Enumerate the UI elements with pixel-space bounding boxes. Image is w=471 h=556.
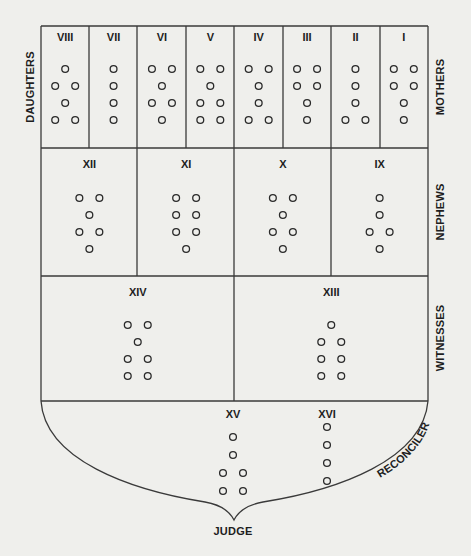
double-dot-right: [144, 356, 151, 363]
single-dot: [230, 452, 237, 459]
double-dot-right: [265, 117, 272, 124]
single-dot: [304, 117, 311, 124]
single-dot: [376, 195, 383, 202]
double-dot-left: [269, 229, 276, 236]
double-dot-left: [390, 83, 397, 90]
double-dot-left: [173, 212, 180, 219]
house-numeral: XIV: [129, 286, 147, 298]
double-dot-right: [96, 195, 103, 202]
double-dot-left: [220, 470, 227, 477]
house-numeral: XV: [226, 408, 241, 420]
single-dot: [86, 212, 93, 219]
double-dot-right: [410, 66, 417, 73]
single-dot: [352, 83, 359, 90]
figure-xv: XV: [220, 408, 247, 494]
double-dot-right: [193, 229, 200, 236]
single-dot: [400, 117, 407, 124]
double-dot-right: [144, 322, 151, 329]
double-dot-right: [193, 195, 200, 202]
double-dot-left: [366, 229, 373, 236]
single-dot: [352, 100, 359, 107]
figure-iii: III: [294, 31, 321, 123]
house-numeral: IV: [253, 31, 264, 43]
double-dot-left: [197, 66, 204, 73]
mothers-label: MOTHERS: [434, 59, 446, 115]
double-dot-right: [265, 66, 272, 73]
double-dot-right: [410, 83, 417, 90]
house-numeral: II: [352, 31, 358, 43]
figure-ii: II: [342, 31, 369, 123]
double-dot-right: [96, 229, 103, 236]
double-dot-right: [144, 373, 151, 380]
double-dot-left: [245, 117, 252, 124]
single-dot: [207, 83, 214, 90]
house-numeral: VI: [157, 31, 167, 43]
single-dot: [324, 460, 331, 467]
figure-xvi: XVI: [318, 408, 336, 484]
double-dot-left: [124, 322, 131, 329]
witnesses-label: WITNESSES: [434, 305, 446, 372]
nephews-label: NEPHEWS: [434, 183, 446, 240]
double-dot-right: [289, 229, 296, 236]
double-dot-right: [217, 100, 224, 107]
double-dot-left: [124, 373, 131, 380]
double-dot-right: [193, 212, 200, 219]
figure-xiii: XIII: [318, 286, 345, 379]
single-dot: [304, 100, 311, 107]
double-dot-left: [220, 488, 227, 495]
judge-label: JUDGE: [214, 525, 253, 537]
house-numeral: VIII: [57, 31, 74, 43]
house-numeral: V: [207, 31, 215, 43]
figure-xi: XI: [173, 158, 200, 252]
figure-i: I: [390, 31, 417, 123]
double-dot-left: [197, 100, 204, 107]
single-dot: [62, 100, 69, 107]
double-dot-right: [217, 66, 224, 73]
double-dot-left: [269, 195, 276, 202]
double-dot-right: [362, 117, 369, 124]
double-dot-left: [342, 117, 349, 124]
double-dot-right: [72, 83, 79, 90]
single-dot: [255, 100, 262, 107]
figure-xiv: XIV: [124, 286, 151, 379]
single-dot: [183, 246, 190, 253]
house-numeral: I: [402, 31, 405, 43]
house-numeral: III: [302, 31, 311, 43]
shield-diagram: DAUGHTERSMOTHERSNEPHEWSWITNESSESRECONCIL…: [0, 0, 471, 556]
house-numeral: XII: [83, 158, 96, 170]
single-dot: [279, 246, 286, 253]
figure-vi: VI: [149, 31, 176, 123]
figure-x: X: [269, 158, 296, 252]
geomantic-shield-chart: DAUGHTERSMOTHERSNEPHEWSWITNESSESRECONCIL…: [0, 0, 471, 556]
figure-iv: IV: [245, 31, 272, 123]
double-dot-right: [338, 356, 345, 363]
double-dot-left: [245, 66, 252, 73]
double-dot-left: [52, 117, 59, 124]
double-dot-left: [76, 195, 83, 202]
single-dot: [110, 100, 117, 107]
double-dot-left: [149, 66, 156, 73]
single-dot: [134, 339, 141, 346]
figure-v: V: [197, 31, 224, 123]
double-dot-right: [338, 373, 345, 380]
single-dot: [110, 66, 117, 73]
double-dot-left: [76, 229, 83, 236]
double-dot-right: [169, 100, 176, 107]
double-dot-left: [124, 356, 131, 363]
single-dot: [328, 322, 335, 329]
single-dot: [376, 246, 383, 253]
figure-vii: VII: [107, 31, 120, 123]
single-dot: [324, 424, 331, 431]
double-dot-left: [294, 66, 301, 73]
double-dot-left: [149, 100, 156, 107]
double-dot-right: [240, 470, 247, 477]
single-dot: [86, 246, 93, 253]
daughters-label: DAUGHTERS: [24, 51, 36, 122]
double-dot-right: [169, 66, 176, 73]
double-dot-right: [338, 339, 345, 346]
double-dot-left: [390, 66, 397, 73]
double-dot-right: [72, 117, 79, 124]
single-dot: [279, 212, 286, 219]
single-dot: [324, 442, 331, 449]
single-dot: [324, 478, 331, 485]
